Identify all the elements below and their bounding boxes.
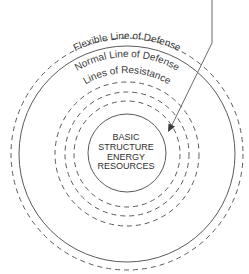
lines-of-resistance-text: Lines of Resistance <box>81 64 173 86</box>
core-line-1: BASIC <box>112 132 140 142</box>
core-line-3: ENERGY <box>107 152 145 162</box>
client-system-diagram: Flexible Line of Defense Normal Line of … <box>0 0 249 274</box>
core-line-2: STRUCTURE <box>98 142 154 152</box>
lines-of-resistance-label: Lines of Resistance <box>81 64 173 86</box>
core-line-4: RESOURCES <box>97 161 154 171</box>
